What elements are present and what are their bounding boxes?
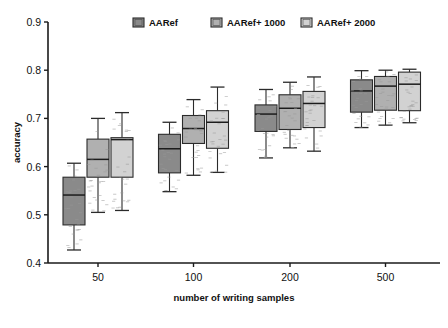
chart-axis-labels: 0.40.50.60.70.80.950100200500number of w… <box>11 16 394 303</box>
box-rect <box>399 72 421 111</box>
legend-item[interactable]: AARef+ 1000 <box>211 17 285 28</box>
legend-item[interactable]: AARef+ 2000 <box>301 17 375 28</box>
y-axis-title: accuracy <box>11 121 22 163</box>
box-rect <box>63 177 85 225</box>
legend-label: AARef <box>149 17 179 28</box>
box-plot-item <box>87 118 109 212</box>
box-plot-item <box>279 82 301 148</box>
box-plot-item <box>207 87 229 172</box>
x-tick-label: 200 <box>281 271 299 283</box>
y-tick-label: 0.7 <box>26 112 41 124</box>
box-rect <box>351 80 373 112</box>
box-rect <box>111 138 133 178</box>
x-axis-title: number of writing samples <box>174 292 295 303</box>
box-plot-item <box>375 70 397 125</box>
box-series-group <box>63 69 421 250</box>
box-rect <box>375 76 397 110</box>
y-tick-label: 0.4 <box>26 257 41 269</box>
box-plot-item <box>159 122 181 191</box>
box-rect <box>279 95 301 130</box>
x-tick-label: 500 <box>377 271 395 283</box>
box-plot-item <box>183 100 205 176</box>
y-tick-label: 0.9 <box>26 16 41 28</box>
box-plot-item <box>63 163 85 250</box>
box-rect <box>303 91 325 127</box>
box-rect <box>207 111 229 149</box>
box-plot-item <box>255 89 277 157</box>
box-plot-item <box>303 77 325 151</box>
box-plot-item <box>351 71 373 128</box>
box-rect <box>255 105 277 132</box>
legend-item[interactable]: AARef <box>133 17 179 28</box>
y-tick-label: 0.5 <box>26 209 41 221</box>
x-tick-label: 50 <box>92 271 104 283</box>
chart-legend: AARefAARef+ 1000AARef+ 2000 <box>133 17 375 28</box>
box-plot-item <box>111 113 133 211</box>
box-plot-item <box>399 69 421 123</box>
y-tick-label: 0.8 <box>26 64 41 76</box>
x-tick-label: 100 <box>185 271 203 283</box>
boxplot-chart: AARefAARef+ 1000AARef+ 2000 0.40.50.60.7… <box>0 0 448 328</box>
legend-label: AARef+ 2000 <box>317 17 375 28</box>
y-tick-label: 0.6 <box>26 161 41 173</box>
boxplot-canvas: AARefAARef+ 1000AARef+ 2000 0.40.50.60.7… <box>0 0 448 328</box>
box-rect <box>87 139 109 177</box>
legend-label: AARef+ 1000 <box>227 17 285 28</box>
